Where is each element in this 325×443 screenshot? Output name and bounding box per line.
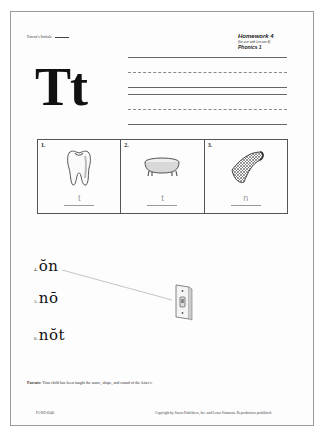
- writing-line-base-2: [128, 124, 287, 125]
- item-number: 2.: [124, 142, 129, 148]
- initials-blank[interactable]: [55, 34, 69, 38]
- parents-note-text: Your child has been taught the name, sha…: [42, 380, 152, 385]
- picture-sound-box: 1. t 2. t 3. n: [37, 139, 288, 214]
- word-item-5[interactable]: 5.nō: [34, 289, 58, 307]
- tooth-icon: [65, 148, 93, 188]
- picture-item-1: 1. t: [38, 140, 121, 213]
- item-number: 1.: [41, 142, 46, 148]
- answer-letter: n: [243, 194, 248, 203]
- item-number: 4.: [34, 267, 38, 272]
- answer-line[interactable]: [147, 205, 177, 206]
- answer-letter: t: [161, 194, 164, 203]
- answer-line[interactable]: [231, 205, 261, 206]
- net-icon: [226, 148, 266, 188]
- writing-line-top[interactable]: [128, 57, 287, 58]
- parents-note-label: Parents:: [27, 380, 41, 385]
- parents-initials-label: Parent's Initials: [27, 34, 52, 39]
- item-number: 3.: [208, 142, 213, 148]
- featured-letter: Tt: [35, 60, 87, 114]
- bathtub-icon: [142, 154, 182, 184]
- picture-item-2: 2. t: [121, 140, 204, 213]
- word-item-6[interactable]: 6.nŏt: [34, 326, 65, 344]
- word-text: nŏt: [39, 326, 65, 344]
- parents-initials: Parent's Initials: [27, 34, 69, 39]
- word-text: nō: [39, 289, 59, 307]
- program-name: Phonics 1: [238, 44, 262, 50]
- item-number: 5.: [34, 299, 38, 304]
- writing-line-base: [128, 87, 287, 88]
- word-text: ŏn: [39, 257, 59, 275]
- writing-line-top-2[interactable]: [128, 94, 287, 95]
- picture-item-3: 3. n: [205, 140, 287, 213]
- parents-note: Parents: Your child has been taught the …: [27, 380, 152, 385]
- light-switch-icon[interactable]: [174, 283, 194, 321]
- answer-line[interactable]: [64, 205, 94, 206]
- footer-copyright: Copyright by Saxon Publishers, Inc. and …: [155, 411, 272, 415]
- footer-code: P1-HO-0340: [36, 411, 54, 415]
- writing-line-mid: [128, 72, 287, 73]
- word-item-4[interactable]: 4.ŏn: [34, 257, 58, 275]
- homework-title: Homework 4: [238, 33, 274, 39]
- item-number: 6.: [34, 336, 38, 341]
- answer-letter: t: [78, 194, 81, 203]
- writing-line-mid-2: [128, 109, 287, 110]
